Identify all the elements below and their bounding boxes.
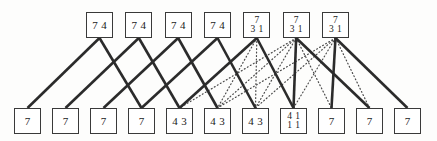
node-top-3[interactable]: 74 — [165, 12, 192, 38]
node-symbol: 7 — [208, 20, 217, 31]
solid-edge — [178, 38, 217, 108]
solid-edge — [142, 38, 218, 108]
node-symbol: 7 — [61, 116, 70, 127]
node-line: 7 — [403, 116, 412, 127]
dotted-edge — [296, 38, 331, 108]
node-symbol: 1 — [257, 25, 265, 35]
node-symbol: 7 — [327, 116, 336, 127]
dotted-edge — [335, 38, 369, 108]
node-symbol: 4 — [217, 20, 226, 31]
node-bot-1[interactable]: 7 — [14, 108, 41, 134]
solid-edge — [139, 38, 180, 108]
node-symbol: 4 — [171, 116, 180, 127]
node-symbol: 4 — [139, 20, 148, 31]
node-symbol: 3 — [327, 25, 335, 35]
node-symbol: 3 — [180, 116, 189, 127]
node-line: 7 — [23, 116, 32, 127]
node-symbol: 7 — [23, 116, 32, 127]
node-line: 7 — [327, 116, 336, 127]
node-line: 31 — [249, 25, 265, 35]
node-symbol: 3 — [249, 25, 257, 35]
node-bot-8[interactable]: 4111 — [280, 108, 307, 134]
node-symbol: 4 — [100, 20, 109, 31]
node-symbol: 3 — [218, 116, 227, 127]
node-line: 7 — [365, 116, 374, 127]
node-symbol: 4 — [247, 116, 256, 127]
node-line: 43 — [209, 116, 227, 127]
node-symbol: 1 — [335, 25, 343, 35]
node-top-4[interactable]: 74 — [204, 12, 231, 38]
node-line: 31 — [327, 25, 343, 35]
node-line: 74 — [91, 20, 109, 31]
solid-edge — [335, 38, 407, 108]
node-top-2[interactable]: 74 — [125, 12, 152, 38]
node-bot-4[interactable]: 7 — [128, 108, 155, 134]
solid-edge — [104, 38, 179, 108]
node-symbol: 1 — [296, 25, 304, 35]
node-symbol: 4 — [209, 116, 218, 127]
node-bot-2[interactable]: 7 — [52, 108, 79, 134]
solid-edge — [180, 38, 257, 108]
node-symbol: 7 — [403, 116, 412, 127]
node-symbol: 7 — [365, 116, 374, 127]
node-bot-3[interactable]: 7 — [90, 108, 117, 134]
node-symbol: 7 — [169, 20, 178, 31]
solid-edge — [28, 38, 100, 108]
node-line: 7 — [137, 116, 146, 127]
node-line: 31 — [288, 25, 304, 35]
node-bot-6[interactable]: 43 — [204, 108, 231, 134]
node-symbol: 3 — [288, 25, 296, 35]
node-symbol: 1 — [286, 121, 294, 131]
solid-edge — [66, 38, 139, 108]
node-top-7[interactable]: 731 — [322, 12, 349, 38]
node-symbol: 4 — [178, 20, 187, 31]
solid-edge — [217, 38, 255, 108]
node-line: 7 — [99, 116, 108, 127]
solid-edge — [257, 38, 294, 108]
node-symbol: 3 — [256, 116, 265, 127]
dotted-edge — [294, 38, 336, 108]
node-top-5[interactable]: 731 — [243, 12, 270, 38]
node-symbol: 7 — [130, 20, 139, 31]
node-symbol: 1 — [294, 121, 302, 131]
node-top-1[interactable]: 74 — [86, 12, 113, 38]
node-bot-7[interactable]: 43 — [242, 108, 269, 134]
node-bot-11[interactable]: 7 — [394, 108, 421, 134]
node-line: 43 — [171, 116, 189, 127]
node-bot-10[interactable]: 7 — [356, 108, 383, 134]
node-top-6[interactable]: 731 — [283, 12, 310, 38]
node-line: 43 — [247, 116, 265, 127]
node-line: 7 — [61, 116, 70, 127]
node-bot-5[interactable]: 43 — [166, 108, 193, 134]
node-line: 74 — [169, 20, 187, 31]
diagram-canvas: 7474747473173173177774343434111777 — [0, 0, 437, 141]
node-symbol: 7 — [137, 116, 146, 127]
node-bot-9[interactable]: 7 — [318, 108, 345, 134]
node-symbol: 7 — [91, 20, 100, 31]
node-line: 11 — [286, 121, 302, 131]
node-symbol: 7 — [99, 116, 108, 127]
solid-edge — [294, 38, 297, 108]
node-line: 74 — [130, 20, 148, 31]
solid-edge — [100, 38, 142, 108]
node-line: 74 — [208, 20, 226, 31]
